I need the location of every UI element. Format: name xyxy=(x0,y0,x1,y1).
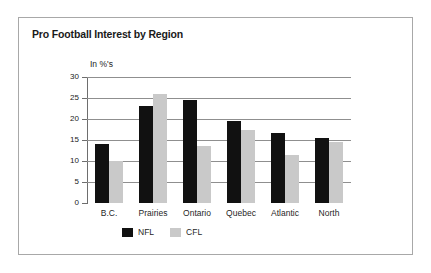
bar-nfl-quebec xyxy=(227,121,241,203)
bar-nfl-atlantic xyxy=(271,133,285,203)
y-tick-label-text: 25 xyxy=(55,94,79,102)
bar-cfl-atlantic xyxy=(285,155,299,203)
bar-nfl-b-c xyxy=(95,144,109,203)
y-tick-label-text: 15 xyxy=(55,136,79,144)
y-tick-mark xyxy=(82,203,87,204)
bar-nfl-north xyxy=(315,138,329,203)
legend-label-cfl: CFL xyxy=(186,228,202,237)
bar-nfl-prairies xyxy=(139,106,153,203)
y-tick-label: 15 xyxy=(51,136,79,144)
chart-figure: Pro Football Interest by Region In %'s 0… xyxy=(0,0,431,273)
bar-cfl-north xyxy=(329,142,343,203)
y-tick-label-text: 30 xyxy=(55,73,79,81)
y-tick-label: 30 xyxy=(51,73,79,81)
x-tick-label: Quebec xyxy=(219,208,263,218)
bar-cfl-b-c xyxy=(109,161,123,203)
x-tick-label: Ontario xyxy=(175,208,219,218)
chart-legend: NFLCFL xyxy=(122,228,202,237)
x-tick-label: Prairies xyxy=(131,208,175,218)
y-tick-label: 25 xyxy=(51,94,79,102)
legend-item-cfl: CFL xyxy=(170,228,202,237)
y-tick-label-text: 10 xyxy=(55,157,79,165)
y-tick-label: 20 xyxy=(51,115,79,123)
bar-cfl-prairies xyxy=(153,94,167,203)
chart-frame: Pro Football Interest by Region In %'s 0… xyxy=(18,17,413,255)
bar-nfl-ontario xyxy=(183,100,197,203)
y-tick-label: 10 xyxy=(51,157,79,165)
x-tick-label: Atlantic xyxy=(263,208,307,218)
y-axis-unit-label: In %'s xyxy=(90,59,113,69)
y-tick-label-text: 5 xyxy=(55,178,79,186)
y-tick-label: 5 xyxy=(51,178,79,186)
y-tick-label: 0 xyxy=(51,199,79,207)
legend-label-nfl: NFL xyxy=(138,228,154,237)
bar-cfl-quebec xyxy=(241,130,255,204)
y-tick-label-text: 0 xyxy=(55,199,79,207)
x-tick-label: North xyxy=(307,208,351,218)
legend-item-nfl: NFL xyxy=(122,228,154,237)
plot-area xyxy=(87,77,351,203)
legend-swatch-cfl xyxy=(170,228,181,237)
plot-wrapper: In %'s 051015202530 B.C.PrairiesOntarioQ… xyxy=(19,18,414,256)
legend-swatch-nfl xyxy=(122,228,133,237)
y-tick-label-text: 20 xyxy=(55,115,79,123)
x-tick-label: B.C. xyxy=(87,208,131,218)
bar-cfl-ontario xyxy=(197,146,211,203)
